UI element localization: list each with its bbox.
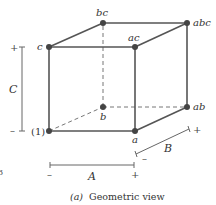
vertex-one (46, 128, 52, 134)
edge-ac-abc (135, 23, 187, 47)
axis-c-label: C (9, 83, 18, 96)
axis-b-label: B (163, 142, 172, 155)
visible-edges (49, 23, 187, 131)
label-c: c (37, 41, 43, 52)
label-one: (1) (31, 126, 45, 137)
axis-a-minus: – (47, 169, 52, 180)
cube-diagram: (1) a b ab c ac bc abc + – C – + A – + B… (0, 0, 216, 205)
vertex-abc (184, 20, 190, 26)
edge-one-b (49, 107, 103, 131)
label-ab: ab (193, 101, 205, 112)
axis-c-plus: + (10, 42, 18, 53)
caption: (a) Geometric view (70, 191, 165, 202)
caption-text: Geometric view (89, 191, 164, 202)
label-b: b (100, 111, 106, 122)
axis-b-minus: – (142, 153, 147, 164)
vertex-c (46, 44, 52, 50)
axis-c (19, 47, 25, 131)
label-a: a (132, 134, 138, 145)
axis-a (50, 162, 134, 168)
edge-a-ab (135, 107, 187, 131)
stray-mark: 3 (0, 168, 3, 177)
caption-prefix: (a) (70, 191, 83, 202)
axis-a-plus: + (131, 169, 139, 180)
axis-b-plus: + (193, 124, 201, 135)
label-ac: ac (128, 32, 140, 43)
label-bc: bc (96, 7, 108, 18)
vertex-ab (184, 104, 190, 110)
axis-c-minus: – (10, 125, 15, 136)
label-abc: abc (193, 17, 211, 28)
vertex-b (100, 104, 106, 110)
axis-a-label: A (87, 170, 96, 183)
vertex-ac (132, 44, 138, 50)
vertex-bc (100, 20, 106, 26)
vertices (46, 20, 190, 134)
hidden-edges (49, 23, 187, 131)
edge-c-bc (49, 23, 103, 47)
